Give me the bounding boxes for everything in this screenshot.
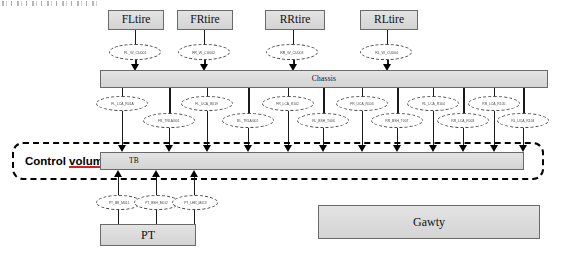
node-fr-trla-lower: FR_TRLA/001 xyxy=(143,113,195,128)
connector-chassis-lower-6 xyxy=(523,88,525,113)
chassis-bar: Chassis xyxy=(100,70,548,88)
connector-chassis-upper-5 xyxy=(433,88,434,96)
connector-pt-box-2 xyxy=(156,210,157,224)
tire-box-rl-label: RLtire xyxy=(374,14,404,26)
connector-pt-up-3 xyxy=(194,177,195,195)
connector-tb-down-11 xyxy=(494,111,495,145)
connector-chassis-upper-4 xyxy=(362,88,363,96)
node-rr-lca-lower: RR_LCA_R003 xyxy=(437,113,489,128)
control-volume-label-prefix: Control xyxy=(25,155,69,167)
connector-pt-box-3 xyxy=(194,210,195,224)
tire-box-fr-label: FRtire xyxy=(190,14,219,26)
arrow-pt-up-2 xyxy=(152,170,160,177)
connector-tb-down-5 xyxy=(288,111,289,145)
connector-pt-box-1 xyxy=(118,210,119,224)
connector-chassis-upper-2 xyxy=(207,88,208,96)
node-fr-wheel-coupler: FR_W_CU002 xyxy=(178,44,230,60)
node-rl-trla-lower: RL_TRLA/002 xyxy=(222,113,274,128)
pt-box: PT xyxy=(100,224,196,246)
connector-chassis-lower-4 xyxy=(397,88,399,113)
arrow-pt-up-3 xyxy=(190,170,198,177)
tb-bar-label: TB xyxy=(129,157,139,165)
connector-pt-up-2 xyxy=(156,177,157,195)
connector-tb-down-9 xyxy=(433,111,434,145)
node-rl-lca-upper: RL_LCA_R104 xyxy=(407,96,459,111)
node-rr-wheel-coupler: RR_W_CU003 xyxy=(266,44,318,60)
node-rr-lca-upper: RR_LCA_R105 xyxy=(468,96,520,111)
connector-tb-down-3 xyxy=(207,111,208,145)
node-rl-bsh-lower: RL_BSH_T006 xyxy=(297,113,349,128)
node-fr-uca-upper: FR_UCA_R103 xyxy=(336,96,388,111)
node-fr-lca-upper: FR_LCA_R102 xyxy=(262,96,314,111)
node-rr-bsh-lower: RR_BSH_T007 xyxy=(371,113,423,128)
connector-chassis-upper-6 xyxy=(494,88,495,96)
node-pt-lhr-mount: PT_LHR_M013 xyxy=(172,195,218,210)
tb-bar: TB xyxy=(100,152,524,170)
tire-box-fl: FLtire xyxy=(108,10,164,30)
gawty-box: Gawty xyxy=(318,205,540,239)
connector-chassis-lower-3 xyxy=(323,88,325,113)
tire-box-fl-label: FLtire xyxy=(122,14,151,26)
connector-tb-down-7 xyxy=(362,111,363,145)
tire-box-rl: RLtire xyxy=(360,10,418,30)
node-rl-wheel-coupler: RL_W_CU004 xyxy=(360,44,412,60)
scan-artifact xyxy=(2,1,98,6)
connector-chassis-lower-2 xyxy=(248,88,250,113)
diagram-canvas: FLtire FRtire RRtire RLtire FL_W_CU001 F… xyxy=(0,0,564,254)
gawty-box-label: Gawty xyxy=(413,216,445,228)
connector-chassis-upper-3 xyxy=(288,88,289,96)
tire-box-rr-label: RRtire xyxy=(280,14,311,26)
connector-fr-tire-top xyxy=(204,30,205,44)
connector-pt-up-1 xyxy=(118,177,119,195)
control-volume-label: Control volumn xyxy=(25,155,110,167)
connector-rl-tire-top xyxy=(387,30,388,44)
connector-chassis-lower-1 xyxy=(169,88,171,113)
connector-chassis-lower-5 xyxy=(463,88,465,113)
arrow-pt-up-1 xyxy=(114,170,122,177)
connector-rr-tire-top xyxy=(293,30,294,44)
node-rl-uca-lower: RL_UCA_R104 xyxy=(497,113,549,128)
node-fl-wheel-coupler: FL_W_CU001 xyxy=(109,44,161,60)
tire-box-rr: RRtire xyxy=(265,10,325,30)
node-fl-uca-upper: FL_UCA_R019 xyxy=(181,96,233,111)
chassis-bar-label: Chassis xyxy=(312,75,336,83)
tire-box-fr: FRtire xyxy=(177,10,233,30)
connector-fl-tire-top xyxy=(135,30,136,44)
pt-box-label: PT xyxy=(141,229,155,241)
connector-tb-down-1 xyxy=(122,111,123,145)
connector-chassis-upper-1 xyxy=(122,88,123,96)
node-fl-lca-upper: FL_LCA_R01A xyxy=(96,96,148,111)
